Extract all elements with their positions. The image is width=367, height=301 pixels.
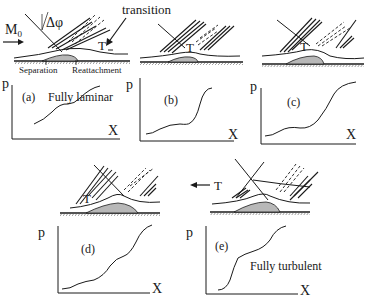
panel-c-pressure-plot — [261, 82, 356, 144]
reattachment-label: Reattachment — [72, 65, 122, 75]
panel-d-x-axis-label: X — [152, 281, 162, 296]
panel-d-y-axis-label: p — [38, 225, 45, 240]
panel-e-tag: (e) — [215, 239, 228, 253]
panel-a-x-axis-label: X — [108, 123, 118, 138]
panel-a-tag: (a) — [22, 90, 35, 104]
panel-a-flow-sketch — [3, 12, 130, 65]
transition-marker-e: T — [214, 178, 222, 193]
panel-e-x-axis-label: X — [300, 283, 310, 298]
delta-phi-label: Δφ — [46, 15, 63, 30]
panel-d-tag: (d) — [81, 242, 95, 256]
panel-e-flow-sketch — [190, 159, 318, 215]
shock-boundary-layer-diagram: M0 Δφ transition T Separation Reattachme… — [0, 0, 367, 301]
transition-label: transition — [122, 2, 172, 17]
transition-marker-c: T — [300, 39, 308, 54]
panel-c-y-axis-label: p — [250, 79, 257, 94]
separation-label: Separation — [19, 65, 58, 75]
panel-a-caption: Fully laminar — [48, 90, 113, 104]
transition-marker-b: T — [186, 40, 194, 55]
panel-e-y-axis-label: p — [186, 225, 193, 240]
panel-b-pressure-plot — [140, 78, 234, 141]
panel-b-y-axis-label: p — [126, 77, 133, 92]
panel-d-flow-sketch — [60, 165, 160, 216]
transition-marker-a: T — [98, 38, 106, 53]
panel-d-pressure-plot — [58, 225, 152, 293]
mach-label: M0 — [5, 22, 22, 39]
panel-e-caption: Fully turbulent — [250, 259, 322, 273]
panel-b-x-axis-label: X — [228, 127, 238, 142]
panel-c-flow-sketch — [262, 18, 364, 67]
panel-b-tag: (b) — [164, 93, 178, 107]
panel-a-y-axis-label: p — [2, 76, 9, 91]
transition-marker-d: T — [83, 191, 91, 206]
panel-c-tag: (c) — [287, 95, 300, 109]
panel-c-x-axis-label: X — [346, 127, 356, 142]
